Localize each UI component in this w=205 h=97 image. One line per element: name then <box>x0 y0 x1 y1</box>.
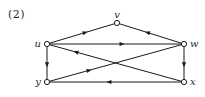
directed-graph-diagram: vuwyx <box>0 0 205 97</box>
vertex-u <box>44 41 49 46</box>
vertex-x <box>181 79 186 84</box>
figure-container: (2) vuwyx <box>0 0 205 97</box>
vertex-w <box>181 41 186 46</box>
edge-u-v <box>49 24 114 44</box>
nodes-layer <box>44 20 186 84</box>
edge-w-v <box>119 24 181 43</box>
arrowhead-x-u <box>73 51 78 55</box>
vertex-label-x: x <box>190 76 196 87</box>
arrowhead-y-w <box>86 69 91 73</box>
vertex-label-u: u <box>35 38 41 49</box>
arrowheads-layer <box>45 31 186 84</box>
arrowhead-u-y <box>45 62 49 67</box>
vertex-label-v: v <box>114 9 120 20</box>
arrowhead-u-w <box>120 42 125 46</box>
vertex-v <box>114 20 119 25</box>
vertex-y <box>44 79 49 84</box>
edges-layer <box>47 24 184 82</box>
vertex-label-y: y <box>34 76 41 87</box>
arrowhead-x-y <box>106 80 111 84</box>
vertex-label-w: w <box>190 38 199 49</box>
arrowhead-u-v <box>82 31 87 35</box>
arrowhead-w-v <box>145 31 150 35</box>
arrowhead-w-x <box>182 62 186 67</box>
